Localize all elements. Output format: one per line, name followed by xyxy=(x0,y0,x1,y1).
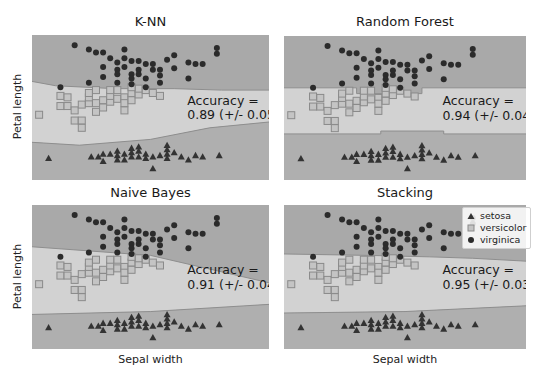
marker-virginica xyxy=(143,245,149,251)
marker-virginica xyxy=(419,57,425,63)
marker-versicolor xyxy=(288,281,295,288)
marker-virginica xyxy=(136,58,142,64)
marker-virginica xyxy=(157,237,163,243)
marker-virginica xyxy=(397,76,403,82)
marker-virginica xyxy=(185,245,191,251)
marker-virginica xyxy=(129,228,135,234)
marker-virginica xyxy=(383,228,389,234)
marker-versicolor xyxy=(149,90,156,97)
marker-virginica xyxy=(397,254,403,260)
marker-virginica xyxy=(325,43,331,49)
marker-virginica xyxy=(57,84,63,90)
marker-versicolor xyxy=(310,262,317,269)
marker-virginica xyxy=(143,76,149,82)
marker-versicolor xyxy=(85,90,92,97)
marker-virginica xyxy=(404,237,410,243)
marker-virginica xyxy=(354,244,360,250)
panel-title: Random Forest xyxy=(284,14,526,29)
marker-versicolor xyxy=(100,266,107,273)
marker-virginica xyxy=(136,228,142,234)
marker-versicolor xyxy=(324,107,331,114)
marker-virginica xyxy=(375,234,381,240)
marker-versicolor xyxy=(121,269,128,276)
marker-versicolor xyxy=(78,101,85,108)
marker-virginica xyxy=(164,57,170,63)
marker-virginica xyxy=(150,61,156,67)
marker-versicolor xyxy=(100,104,107,111)
marker-virginica xyxy=(412,250,418,256)
marker-versicolor xyxy=(100,274,107,281)
marker-versicolor xyxy=(71,286,78,293)
marker-virginica xyxy=(383,245,389,251)
marker-versicolor xyxy=(375,107,382,114)
marker-versicolor xyxy=(375,276,382,283)
marker-versicolor xyxy=(368,256,375,263)
marker-versicolor xyxy=(128,266,135,273)
marker-virginica xyxy=(361,56,367,62)
marker-virginica xyxy=(129,58,135,64)
marker-virginica xyxy=(185,60,191,66)
marker-versicolor xyxy=(64,263,71,270)
marker-virginica xyxy=(368,250,374,256)
marker-virginica xyxy=(129,76,135,82)
marker-virginica xyxy=(129,251,135,257)
marker-versicolor xyxy=(114,265,121,272)
marker-virginica xyxy=(455,62,461,68)
marker-versicolor xyxy=(92,87,99,94)
marker-versicolor xyxy=(71,107,78,114)
marker-virginica xyxy=(143,61,149,67)
marker-virginica xyxy=(121,64,127,70)
marker-virginica xyxy=(390,241,396,247)
marker-virginica xyxy=(397,245,403,251)
marker-virginica xyxy=(441,60,447,66)
marker-virginica xyxy=(397,85,403,91)
marker-virginica xyxy=(171,235,177,241)
marker-virginica xyxy=(448,62,454,68)
marker-virginica xyxy=(426,53,432,59)
plot-area: Accuracy =0.94 (+/- 0.04) xyxy=(284,36,526,180)
marker-versicolor xyxy=(135,255,142,262)
marker-virginica xyxy=(157,67,163,73)
marker-virginica xyxy=(114,71,120,77)
marker-virginica xyxy=(412,68,418,74)
marker-virginica xyxy=(114,60,120,66)
legend-label: virginica xyxy=(480,234,520,246)
marker-virginica xyxy=(419,226,425,232)
marker-virginica xyxy=(171,52,177,58)
marker-virginica xyxy=(193,231,199,237)
marker-virginica xyxy=(375,225,381,231)
region-setosa xyxy=(284,131,526,180)
marker-virginica xyxy=(448,231,454,237)
marker-virginica xyxy=(171,65,177,71)
marker-virginica xyxy=(470,46,476,52)
marker-versicolor xyxy=(368,96,375,103)
marker-versicolor xyxy=(346,100,353,107)
marker-versicolor xyxy=(324,276,331,283)
marker-versicolor xyxy=(78,117,85,124)
marker-versicolor xyxy=(114,87,121,94)
marker-virginica xyxy=(397,62,403,68)
marker-virginica xyxy=(200,231,206,237)
marker-virginica xyxy=(121,55,127,61)
marker-virginica xyxy=(136,71,142,77)
marker-versicolor xyxy=(57,103,64,110)
marker-versicolor xyxy=(310,103,317,110)
marker-versicolor xyxy=(57,272,64,279)
marker-virginica xyxy=(404,231,410,237)
marker-virginica xyxy=(93,49,99,55)
marker-versicolor xyxy=(121,107,128,114)
panel-title: Stacking xyxy=(284,185,526,200)
marker-versicolor xyxy=(57,262,64,269)
marker-virginica xyxy=(339,81,345,87)
marker-virginica xyxy=(129,245,135,251)
legend-item-virginica: virginica xyxy=(467,234,526,246)
marker-versicolor xyxy=(310,93,317,100)
marker-virginica xyxy=(412,81,418,87)
marker-virginica xyxy=(121,225,127,231)
panel-title: Naive Bayes xyxy=(32,185,269,200)
panel-title: K-NN xyxy=(32,14,269,29)
marker-versicolor xyxy=(107,256,114,263)
marker-virginica xyxy=(390,59,396,65)
marker-virginica xyxy=(368,60,374,66)
marker-virginica xyxy=(412,73,418,79)
